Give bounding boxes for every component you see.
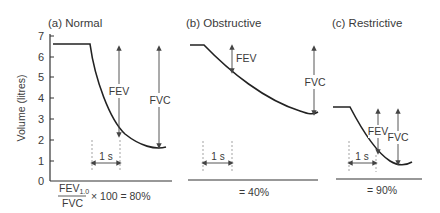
- fvc-label: FVC: [388, 131, 409, 143]
- panel-obstructive: (b) Obstructive FEV FVC 1 s = 40%: [186, 17, 326, 198]
- y-tick: 2: [38, 134, 44, 146]
- fvc-label: FVC: [305, 76, 326, 88]
- panel-title: (b) Obstructive: [186, 17, 261, 29]
- spirometry-figure: 0 1 2 3 4 5 6 7 Volume (litres) (a) Norm…: [0, 0, 440, 213]
- ratio-result: = 40%: [239, 186, 269, 198]
- y-tick: 5: [38, 71, 44, 83]
- ratio-numerator: FEV1.0: [59, 182, 89, 195]
- ratio-result: = 90%: [367, 184, 397, 196]
- ratio-denominator: FVC: [62, 197, 83, 209]
- y-tick: 3: [38, 113, 44, 125]
- y-tick: 0: [38, 175, 44, 187]
- time-label: 1 s: [355, 151, 368, 162]
- ratio-result: × 100 = 80%: [91, 190, 151, 202]
- y-axis: 0 1 2 3 4 5 6 7 Volume (litres): [15, 30, 54, 187]
- panel-title: (a) Normal: [48, 17, 102, 29]
- panel-restrictive: (c) Restrictive FEV FVC 1 s = 90%: [332, 17, 422, 196]
- panel-normal: (a) Normal FEV FVC 1 s FEV1.0 FVC × 100 …: [48, 17, 172, 209]
- y-axis-label: Volume (litres): [15, 74, 27, 141]
- y-tick: 6: [38, 51, 44, 63]
- y-tick: 7: [38, 30, 44, 42]
- y-tick: 4: [38, 92, 44, 104]
- fev-label: FEV: [368, 125, 388, 137]
- panel-title: (c) Restrictive: [332, 17, 402, 29]
- fev-label: FEV: [109, 85, 129, 97]
- fev-label: FEV: [236, 52, 256, 64]
- time-label: 1 s: [99, 151, 112, 162]
- time-label: 1 s: [211, 151, 224, 162]
- fvc-label: FVC: [150, 94, 171, 106]
- y-tick: 1: [38, 155, 44, 167]
